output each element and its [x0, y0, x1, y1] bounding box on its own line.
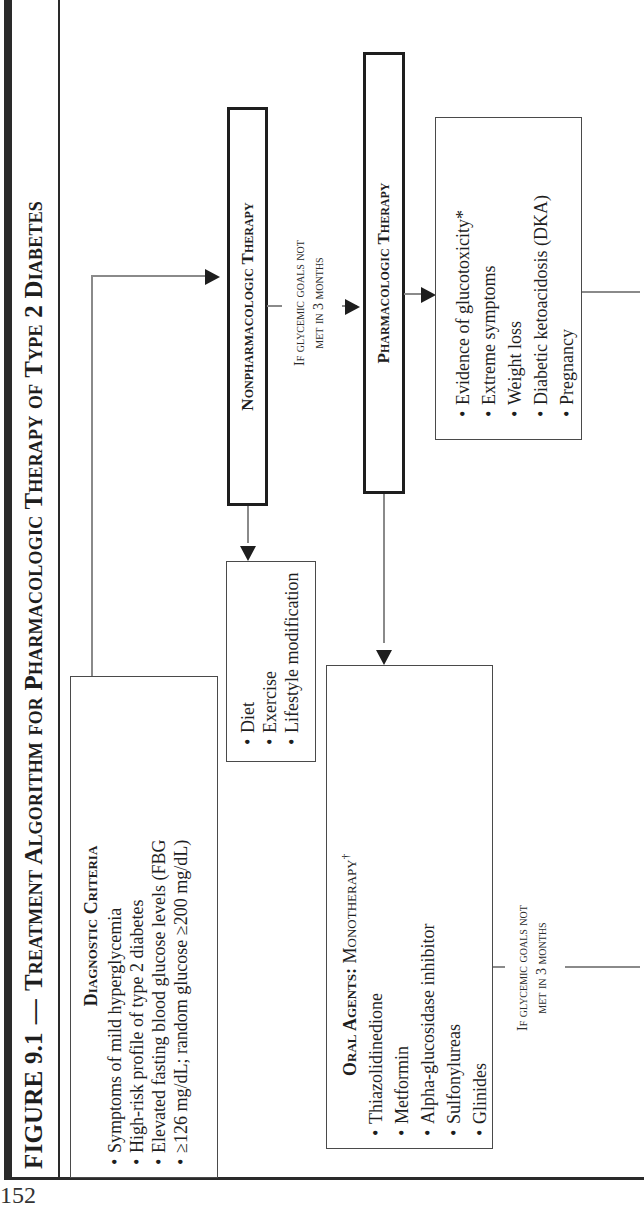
oral-agent-item: Glinides	[467, 676, 493, 1136]
nonpharmacologic-therapy-box: Nonpharmacologic Therapy	[227, 107, 268, 506]
oral-agent-item: Thiazolidinedione	[363, 676, 389, 1136]
figure-title: FIGURE 9.1 — Treatment Algorithm for Pha…	[14, 201, 54, 1169]
lifestyle-list: Diet Exercise Lifestyle modification	[237, 570, 303, 745]
lifestyle-item: Lifestyle modification	[281, 570, 303, 745]
diagnostic-item-continued: ≥126 mg/dL; random glucose ≥200 mg/dL)	[170, 687, 192, 1165]
oral-agents-list: Thiazolidinedione Metformin Alpha-glucos…	[363, 676, 493, 1136]
title-dash: —	[20, 999, 48, 1024]
connector-gluco-right	[582, 292, 640, 294]
connector-diag-right	[91, 276, 208, 278]
diagnostic-criteria-box: Diagnostic Criteria Symptoms of mild hyp…	[70, 676, 218, 1178]
diagnostic-item: Elevated fasting blood glucose levels (F…	[148, 687, 170, 1165]
glucotoxicity-box: Evidence of glucotoxicity* Extreme sympt…	[435, 117, 582, 440]
diagnostic-item: High-risk profile of type 2 diabetes	[126, 687, 148, 1165]
condition-1-line2: met in 3 months	[309, 223, 328, 383]
figure-label: FIGURE 9.1	[20, 1032, 48, 1169]
condition-2-line2: met in 3 months	[532, 888, 551, 1048]
oral-agents-box: Oral Agents: Monotherapy† Thiazolidinedi…	[326, 665, 493, 1149]
oral-agents-heading-rest: Monotherapy	[340, 859, 360, 968]
glucotoxicity-item: Pregnancy	[554, 126, 580, 417]
nonpharm-label: Nonpharmacologic Therapy	[238, 202, 258, 410]
oral-agents-heading: Oral Agents: Monotherapy†	[339, 676, 361, 1136]
title-divider	[58, 0, 60, 1180]
oral-agent-item: Alpha-glucosidase inhibitor	[415, 676, 441, 1136]
arrow-to-lifestyle	[240, 546, 256, 561]
condition-label-1: If glycemic goals not met in 3 months	[282, 223, 342, 383]
lifestyle-item: Diet	[237, 570, 259, 745]
pharmacologic-therapy-box: Pharmacologic Therapy	[363, 52, 405, 494]
connector-diag-up	[91, 277, 93, 676]
arrow-to-oral-agents	[376, 650, 392, 665]
frame-bottom-rule	[4, 0, 12, 1180]
arrow-to-pharm	[345, 299, 360, 315]
arrow-to-glucotoxicity	[421, 287, 436, 303]
oral-agent-item: Sulfonylureas	[441, 676, 467, 1136]
oral-agents-heading-bold: Oral Agents:	[340, 968, 360, 1076]
condition-1-line1: If glycemic goals not	[290, 223, 309, 383]
oral-agent-item: Metformin	[389, 676, 415, 1136]
glucotoxicity-item: Weight loss	[502, 126, 528, 417]
condition-2-line1: If glycemic goals not	[513, 888, 532, 1048]
arrow-to-nonpharm	[205, 269, 220, 285]
condition-label-2: If glycemic goals not met in 3 months	[505, 888, 565, 1048]
glucotoxicity-list: Evidence of glucotoxicity* Extreme sympt…	[450, 126, 580, 417]
page-number: 152	[0, 1182, 36, 1209]
connector-nonpharm-lifestyle	[247, 506, 249, 543]
dagger-mark: †	[339, 854, 351, 860]
diagnostic-item: Symptoms of mild hyperglycemia	[104, 687, 126, 1165]
lifestyle-box: Diet Exercise Lifestyle modification	[226, 561, 316, 762]
diagnostic-list: Symptoms of mild hyperglycemia High-risk…	[104, 687, 192, 1165]
pharm-label: Pharmacologic Therapy	[374, 183, 394, 364]
figure-title-text: Treatment Algorithm for Pharmacologic Th…	[20, 201, 48, 991]
connector-pharm-oral-h	[383, 494, 385, 643]
glucotoxicity-item: Diabetic ketoacidosis (DKA)	[528, 126, 554, 417]
glucotoxicity-item: Evidence of glucotoxicity*	[450, 126, 476, 417]
diagnostic-heading: Diagnostic Criteria	[81, 687, 102, 1165]
glucotoxicity-item: Extreme symptoms	[476, 126, 502, 417]
lifestyle-item: Exercise	[259, 570, 281, 745]
